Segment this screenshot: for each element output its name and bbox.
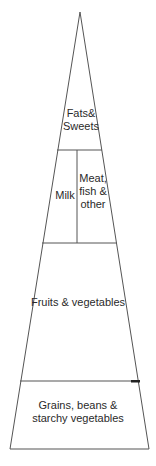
label-fats-sweets: Fats& Sweets	[58, 107, 104, 133]
food-pyramid-diagram: Fats& Sweets Milk Meat, fish & other Fru…	[0, 0, 156, 466]
label-fruits-vegetables: Fruits & vegetables	[30, 296, 126, 309]
divider-mark	[131, 380, 140, 383]
pyramid-outline	[0, 0, 156, 466]
label-grains-beans-starchy: Grains, beans & starchy vegetables	[25, 399, 131, 425]
label-meat-fish-other: Meat, fish & other	[78, 172, 108, 211]
label-milk: Milk	[52, 189, 78, 202]
left-edge	[10, 12, 80, 449]
right-edge	[80, 12, 149, 449]
